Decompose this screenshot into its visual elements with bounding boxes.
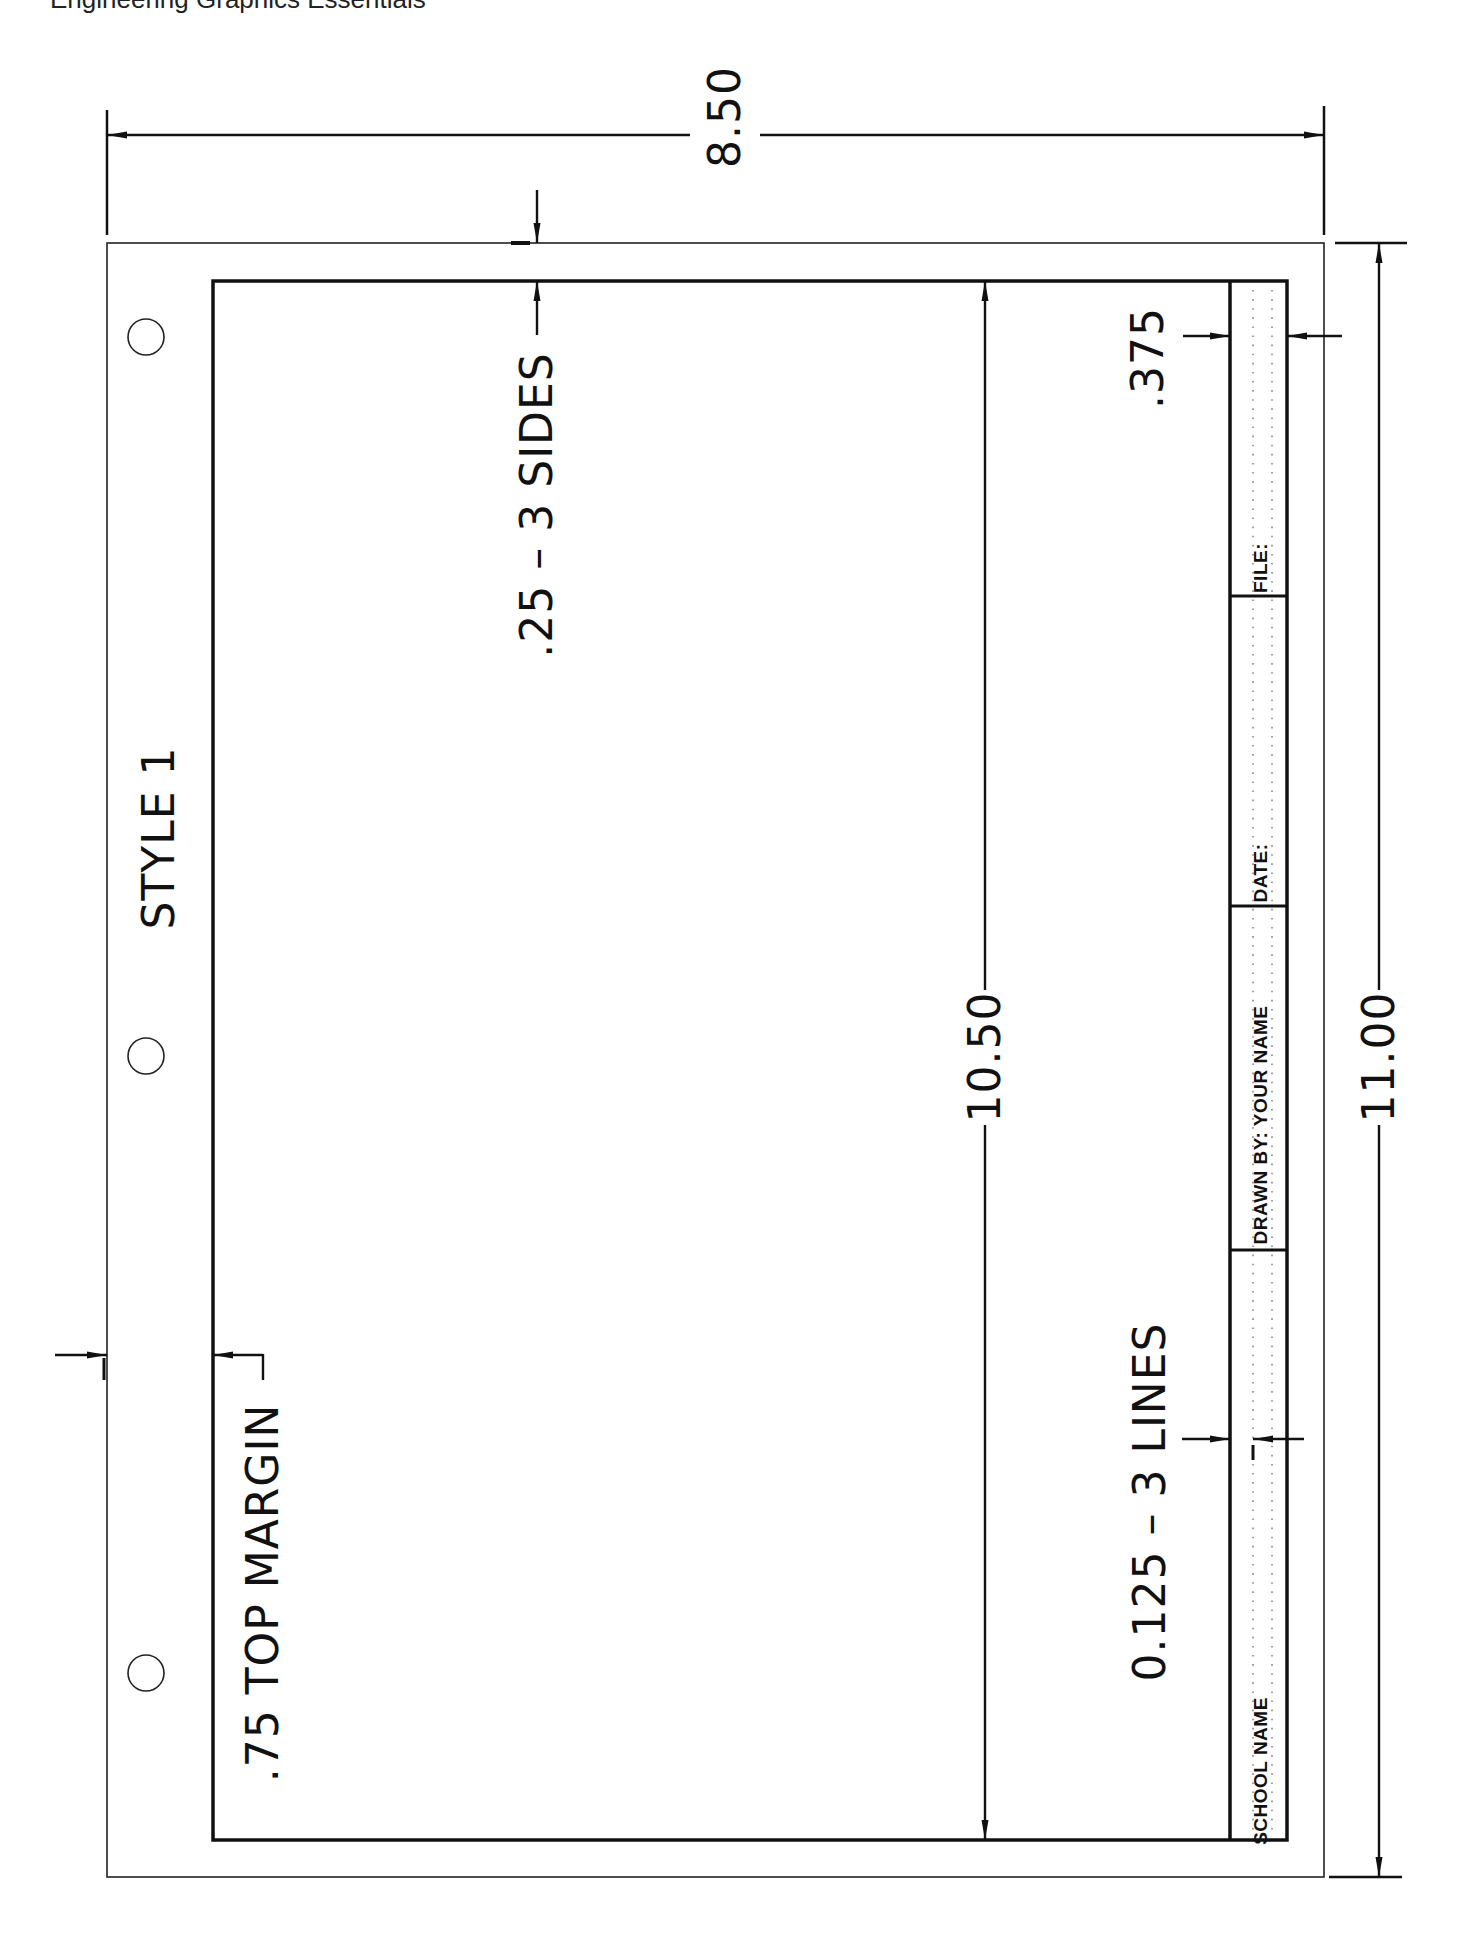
title-block-date: DATE:: [1251, 843, 1270, 902]
title-block-drawn-by: DRAWN BY: YOUR NAME: [1251, 1006, 1270, 1245]
title-block-file: FILE:: [1251, 543, 1270, 593]
title-sheet-drawing: [0, 0, 1469, 1936]
dim-top-margin: [55, 1354, 263, 1380]
title-block-school-name: SCHOOL NAME: [1251, 1697, 1270, 1845]
dim-side-margin-label: .25 – 3 SIDES: [515, 352, 559, 657]
dim-title-block-width-label: .375: [1126, 307, 1170, 409]
dim-side-margin: [511, 190, 537, 335]
punch-hole-icon: [128, 1038, 164, 1074]
punch-hole-icon: [128, 319, 164, 355]
dim-width-label: 8.50: [703, 66, 747, 168]
style-label: STYLE 1: [137, 747, 181, 930]
punch-hole-icon: [128, 1655, 164, 1691]
dim-top-margin-label: .75 TOP MARGIN: [241, 1404, 285, 1783]
dim-height-label: 11.00: [1357, 992, 1401, 1123]
dim-border-height-label: 10.50: [963, 992, 1007, 1123]
dim-line-spacing-label: 0.125 – 3 LINES: [1128, 1322, 1172, 1681]
